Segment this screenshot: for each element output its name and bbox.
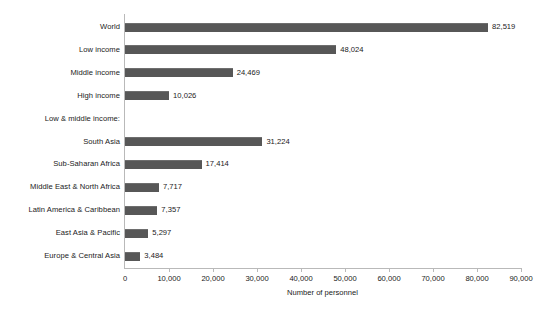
bar-value-label: 17,414 [206, 159, 229, 169]
bar: 7,357 [125, 206, 157, 215]
bar: 7,717 [125, 183, 159, 192]
bar-fill [125, 91, 169, 100]
category-label: Sub-Saharan Africa [53, 156, 120, 172]
bar-value-label: 82,519 [492, 22, 515, 32]
x-axis-tick [345, 268, 346, 272]
x-axis-title: Number of personnel [124, 288, 521, 298]
bar-row: Low income48,024 [0, 42, 552, 58]
x-axis-tick-label: 30,000 [245, 274, 268, 284]
category-label: Europe & Central Asia [44, 248, 120, 264]
bar: 31,224 [125, 137, 262, 146]
x-axis-tick [213, 268, 214, 272]
bar-fill [125, 23, 488, 32]
category-label: Latin America & Caribbean [28, 202, 120, 218]
bar-value-label: 7,717 [163, 182, 182, 192]
x-axis-tick [301, 268, 302, 272]
bar: 10,026 [125, 91, 169, 100]
category-label: Middle East & North Africa [30, 179, 120, 195]
bar-row: World82,519 [0, 19, 552, 35]
bar: 24,469 [125, 68, 233, 77]
category-label: World [100, 19, 120, 35]
x-axis-tick-label: 70,000 [421, 274, 444, 284]
x-axis-tick-label: 20,000 [201, 274, 224, 284]
bar-fill [125, 206, 157, 215]
bar-row: Sub-Saharan Africa17,414 [0, 156, 552, 172]
bar-value-label: 48,024 [340, 45, 363, 55]
bar-row: Europe & Central Asia3,484 [0, 248, 552, 264]
bar-value-label: 5,297 [152, 228, 171, 238]
bar-fill [125, 229, 148, 238]
bar-row: Middle East & North Africa7,717 [0, 179, 552, 195]
bar-row: South Asia31,224 [0, 134, 552, 150]
plot-area: World82,519Low income48,024Middle income… [0, 0, 552, 310]
bar: 3,484 [125, 252, 140, 261]
x-axis-tick [257, 268, 258, 272]
bar: 48,024 [125, 45, 336, 54]
bar-row: Latin America & Caribbean7,357 [0, 202, 552, 218]
bar-value-label: 10,026 [173, 91, 196, 101]
x-axis-line [124, 268, 521, 269]
x-axis-tick-label: 50,000 [333, 274, 356, 284]
x-axis-tick-label: 60,000 [377, 274, 400, 284]
category-group-header-row: Low & middle income: [0, 111, 552, 127]
category-label: South Asia [83, 134, 120, 150]
bar-chart: World82,519Low income48,024Middle income… [0, 0, 552, 310]
bar-fill [125, 137, 262, 146]
x-axis-tick-label: 0 [123, 274, 127, 284]
bar-row: Middle income24,469 [0, 65, 552, 81]
x-axis-tick-label: 40,000 [289, 274, 312, 284]
x-axis-tick-label: 90,000 [509, 274, 532, 284]
bar-fill [125, 45, 336, 54]
bar-value-label: 31,224 [266, 137, 289, 147]
bar-fill [125, 68, 233, 77]
bar-row: High income10,026 [0, 88, 552, 104]
x-axis-tick [477, 268, 478, 272]
category-label: High income [77, 88, 120, 104]
bar: 17,414 [125, 160, 202, 169]
category-label: Low income [79, 42, 120, 58]
category-label: East Asia & Pacific [56, 225, 120, 241]
x-axis-tick-label: 10,000 [157, 274, 180, 284]
bar-fill [125, 183, 159, 192]
bar-value-label: 3,484 [144, 251, 163, 261]
bar-fill [125, 252, 140, 261]
x-axis-tick [389, 268, 390, 272]
bar-value-label: 24,469 [237, 68, 260, 78]
x-axis-tick [521, 268, 522, 272]
bar-row: East Asia & Pacific5,297 [0, 225, 552, 241]
bar: 82,519 [125, 23, 488, 32]
category-label: Middle income [70, 65, 120, 81]
bar-value-label: 7,357 [161, 205, 180, 215]
x-axis-tick [169, 268, 170, 272]
category-label: Low & middle income: [45, 111, 120, 127]
bar: 5,297 [125, 229, 148, 238]
bar-fill [125, 160, 202, 169]
x-axis-tick-label: 80,000 [465, 274, 488, 284]
x-axis-tick [433, 268, 434, 272]
